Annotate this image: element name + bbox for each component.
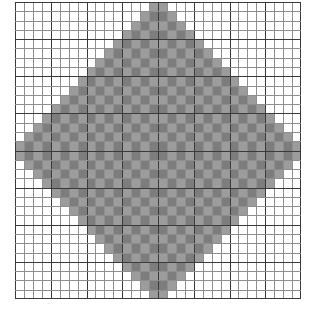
heatmap-cell <box>95 113 104 123</box>
heatmap-cell <box>122 151 131 160</box>
heatmap-cell <box>78 95 87 104</box>
heatmap-cell <box>158 169 167 178</box>
heatmap-cell <box>194 151 203 160</box>
heatmap-cell <box>104 132 113 141</box>
heatmap-cell <box>203 197 212 206</box>
heatmap-cell <box>87 197 95 206</box>
heatmap-cell <box>158 113 167 123</box>
heatmap-cell <box>221 141 230 151</box>
heatmap-cell <box>212 206 221 215</box>
heatmap-cell <box>87 215 95 225</box>
heatmap-cell <box>185 262 194 271</box>
heatmap-cell <box>140 280 149 290</box>
heatmap-cell <box>158 30 167 39</box>
heatmap-cell <box>42 113 51 123</box>
heatmap-cell <box>283 160 292 169</box>
heatmap-cell <box>283 141 292 151</box>
heatmap-cell <box>194 76 203 86</box>
heatmap-cell <box>194 253 203 262</box>
heatmap-cell <box>149 234 158 243</box>
heatmap-cell <box>95 197 104 206</box>
heatmap-cell <box>238 132 247 141</box>
heatmap-cell <box>78 113 87 123</box>
heatmap-cell <box>33 132 42 141</box>
heatmap-cell <box>221 132 230 141</box>
heatmap-cell <box>256 151 265 160</box>
heatmap-cell <box>176 197 185 206</box>
heatmap-cell <box>265 123 274 132</box>
heatmap-cell <box>95 178 104 188</box>
heatmap-cell <box>247 151 256 160</box>
heatmap-cell <box>265 141 274 151</box>
heatmap-cell <box>95 215 104 225</box>
heatmap-cell <box>42 178 51 188</box>
heatmap-cell <box>212 95 221 104</box>
heatmap-cell <box>122 76 131 86</box>
heatmap-cell <box>122 132 131 141</box>
heatmap-cell <box>185 86 194 95</box>
heatmap-cell <box>51 113 60 123</box>
heatmap-cell <box>131 141 140 151</box>
heatmap-cell <box>149 113 158 123</box>
heatmap-cell <box>131 39 140 48</box>
heatmap-cell <box>104 95 113 104</box>
heatmap-cell <box>158 234 167 243</box>
heatmap-cell <box>104 113 113 123</box>
heatmap-cell <box>230 188 238 197</box>
heatmap-cell <box>274 169 283 178</box>
heatmap-cell <box>176 67 185 76</box>
heatmap-cell <box>33 151 42 160</box>
heatmap-cell <box>140 225 149 234</box>
heatmap-cell <box>212 215 221 225</box>
heatmap-cell <box>158 48 167 58</box>
heatmap-cell <box>131 169 140 178</box>
heatmap-cell <box>149 58 158 67</box>
heatmap-cell <box>140 243 149 253</box>
heatmap-cell <box>69 169 78 178</box>
heatmap-cell <box>238 123 247 132</box>
heatmap-cell <box>131 86 140 95</box>
heatmap-cell <box>95 141 104 151</box>
heatmap-cell <box>131 67 140 76</box>
heatmap-cell <box>149 39 158 48</box>
heatmap-cell <box>122 86 131 95</box>
heatmap-cell <box>122 234 131 243</box>
heatmap-cell <box>265 178 274 188</box>
heatmap-cell <box>69 104 78 113</box>
heatmap-cell <box>167 280 176 290</box>
heatmap-cell <box>238 169 247 178</box>
heatmap-cell <box>292 151 301 160</box>
heatmap-cell <box>158 178 167 188</box>
heatmap-cell <box>176 48 185 58</box>
heatmap-cell <box>238 113 247 123</box>
heatmap-cell <box>87 132 95 141</box>
heatmap-cell <box>149 169 158 178</box>
heatmap-cell <box>140 253 149 262</box>
heatmap-cell <box>149 197 158 206</box>
heatmap-cell <box>158 271 167 280</box>
heatmap-cell <box>113 188 122 197</box>
heatmap-cell <box>167 21 176 30</box>
heatmap-cell <box>104 215 113 225</box>
heatmap-cell <box>158 2 167 11</box>
heatmap-cell <box>212 67 221 76</box>
heatmap-cell <box>212 123 221 132</box>
heatmap-cell <box>185 215 194 225</box>
heatmap-cell <box>212 169 221 178</box>
heatmap-cell <box>230 76 238 86</box>
heatmap-cell <box>247 197 256 206</box>
heatmap-cell <box>194 58 203 67</box>
heatmap-cell <box>33 160 42 169</box>
heatmap-cell <box>158 290 167 299</box>
heatmap-cell <box>238 104 247 113</box>
heatmap-cell <box>140 215 149 225</box>
heatmap-cell <box>69 123 78 132</box>
heatmap-cell <box>149 206 158 215</box>
heatmap-cell <box>274 160 283 169</box>
heatmap-cell <box>167 11 176 21</box>
heatmap-cell <box>149 132 158 141</box>
heatmap-cell <box>122 104 131 113</box>
heatmap-cell <box>149 141 158 151</box>
heatmap-cell <box>113 178 122 188</box>
heatmap-cell <box>149 67 158 76</box>
